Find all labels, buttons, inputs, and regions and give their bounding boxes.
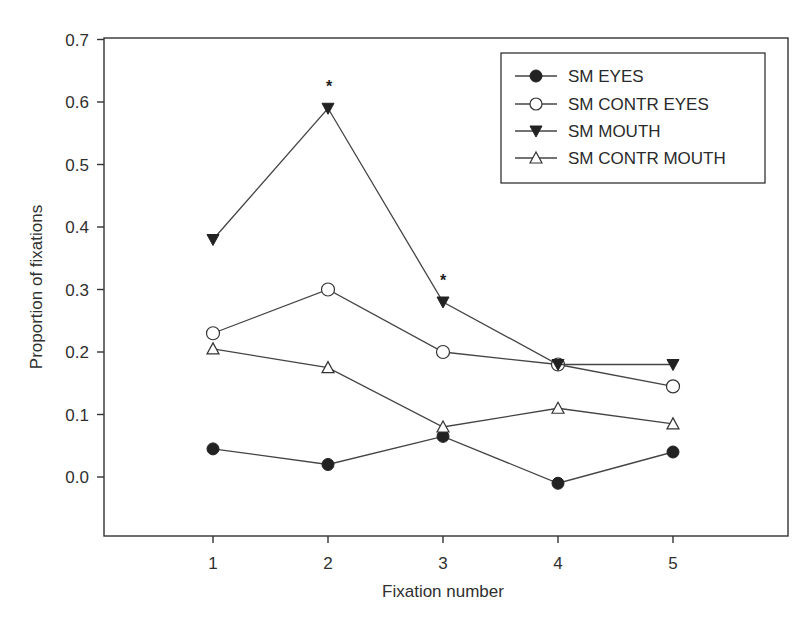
x-tick-label: 4 bbox=[553, 554, 562, 573]
triangle-down-marker-icon bbox=[437, 297, 449, 308]
x-tick-label: 1 bbox=[208, 554, 217, 573]
filled-circle-marker-icon bbox=[322, 459, 334, 471]
y-tick-label: 0.5 bbox=[65, 156, 89, 175]
open-circle-marker-icon bbox=[322, 283, 335, 296]
open-circle-marker-icon bbox=[437, 346, 450, 359]
line-chart: 0.00.10.20.30.40.50.60.7 12345 Fixation … bbox=[0, 0, 811, 624]
y-tick-label: 0.3 bbox=[65, 281, 89, 300]
x-tick-label: 3 bbox=[438, 554, 447, 573]
open-circle-marker-icon bbox=[667, 380, 680, 393]
y-axis: 0.00.10.20.30.40.50.60.7 bbox=[65, 31, 104, 488]
legend: SM EYES SM CONTR EYES SM MOUTH SM CONTR … bbox=[501, 53, 765, 183]
filled-circle-marker-icon bbox=[667, 446, 679, 458]
triangle-down-marker-icon bbox=[207, 235, 219, 246]
triangle-up-marker-icon bbox=[552, 402, 564, 413]
y-tick-label: 0.2 bbox=[65, 343, 89, 362]
x-axis: 12345 bbox=[208, 536, 677, 573]
series-sm-eyes bbox=[207, 430, 679, 489]
open-circle-marker-icon bbox=[207, 327, 220, 340]
x-tick-label: 5 bbox=[668, 554, 677, 573]
y-axis-title: Proportion of fixations bbox=[27, 205, 46, 369]
y-tick-label: 0.7 bbox=[65, 31, 89, 50]
filled-circle-marker-icon bbox=[530, 70, 542, 82]
y-tick-label: 0.1 bbox=[65, 406, 89, 425]
triangle-up-marker-icon bbox=[207, 343, 219, 354]
legend-label: SM CONTR EYES bbox=[568, 95, 709, 114]
x-tick-label: 2 bbox=[323, 554, 332, 573]
open-circle-marker-icon bbox=[530, 98, 542, 110]
x-axis-title: Fixation number bbox=[382, 582, 504, 601]
legend-label: SM EYES bbox=[568, 67, 644, 86]
filled-circle-marker-icon bbox=[207, 443, 219, 455]
significance-asterisk-x2: * bbox=[326, 78, 333, 95]
y-tick-label: 0.4 bbox=[65, 218, 89, 237]
legend-label: SM MOUTH bbox=[568, 122, 661, 141]
significance-asterisk-x3: * bbox=[440, 272, 447, 289]
legend-label: SM CONTR MOUTH bbox=[568, 149, 726, 168]
filled-circle-marker-icon bbox=[552, 477, 564, 489]
y-tick-label: 0.0 bbox=[65, 468, 89, 487]
y-tick-label: 0.6 bbox=[65, 93, 89, 112]
